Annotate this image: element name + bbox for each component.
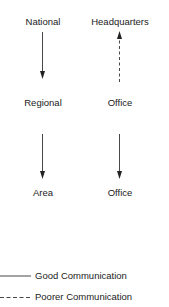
arrow-regional-to-area bbox=[40, 134, 45, 179]
node-regional: Regional bbox=[24, 97, 62, 108]
arrow-office-to-headquarters-dashed bbox=[117, 31, 122, 82]
node-headquarters: Headquarters bbox=[91, 16, 149, 27]
arrow-office-to-office bbox=[117, 134, 122, 179]
arrow-national-to-regional bbox=[40, 32, 45, 79]
legend-poorer-communication: Poorer Communication bbox=[35, 291, 132, 302]
node-office-bottom: Office bbox=[108, 187, 133, 198]
legend-good-communication: Good Communication bbox=[35, 270, 127, 281]
diagram-arrows bbox=[0, 0, 169, 307]
node-office-mid: Office bbox=[108, 97, 133, 108]
node-national: National bbox=[26, 16, 61, 27]
node-area: Area bbox=[33, 187, 53, 198]
